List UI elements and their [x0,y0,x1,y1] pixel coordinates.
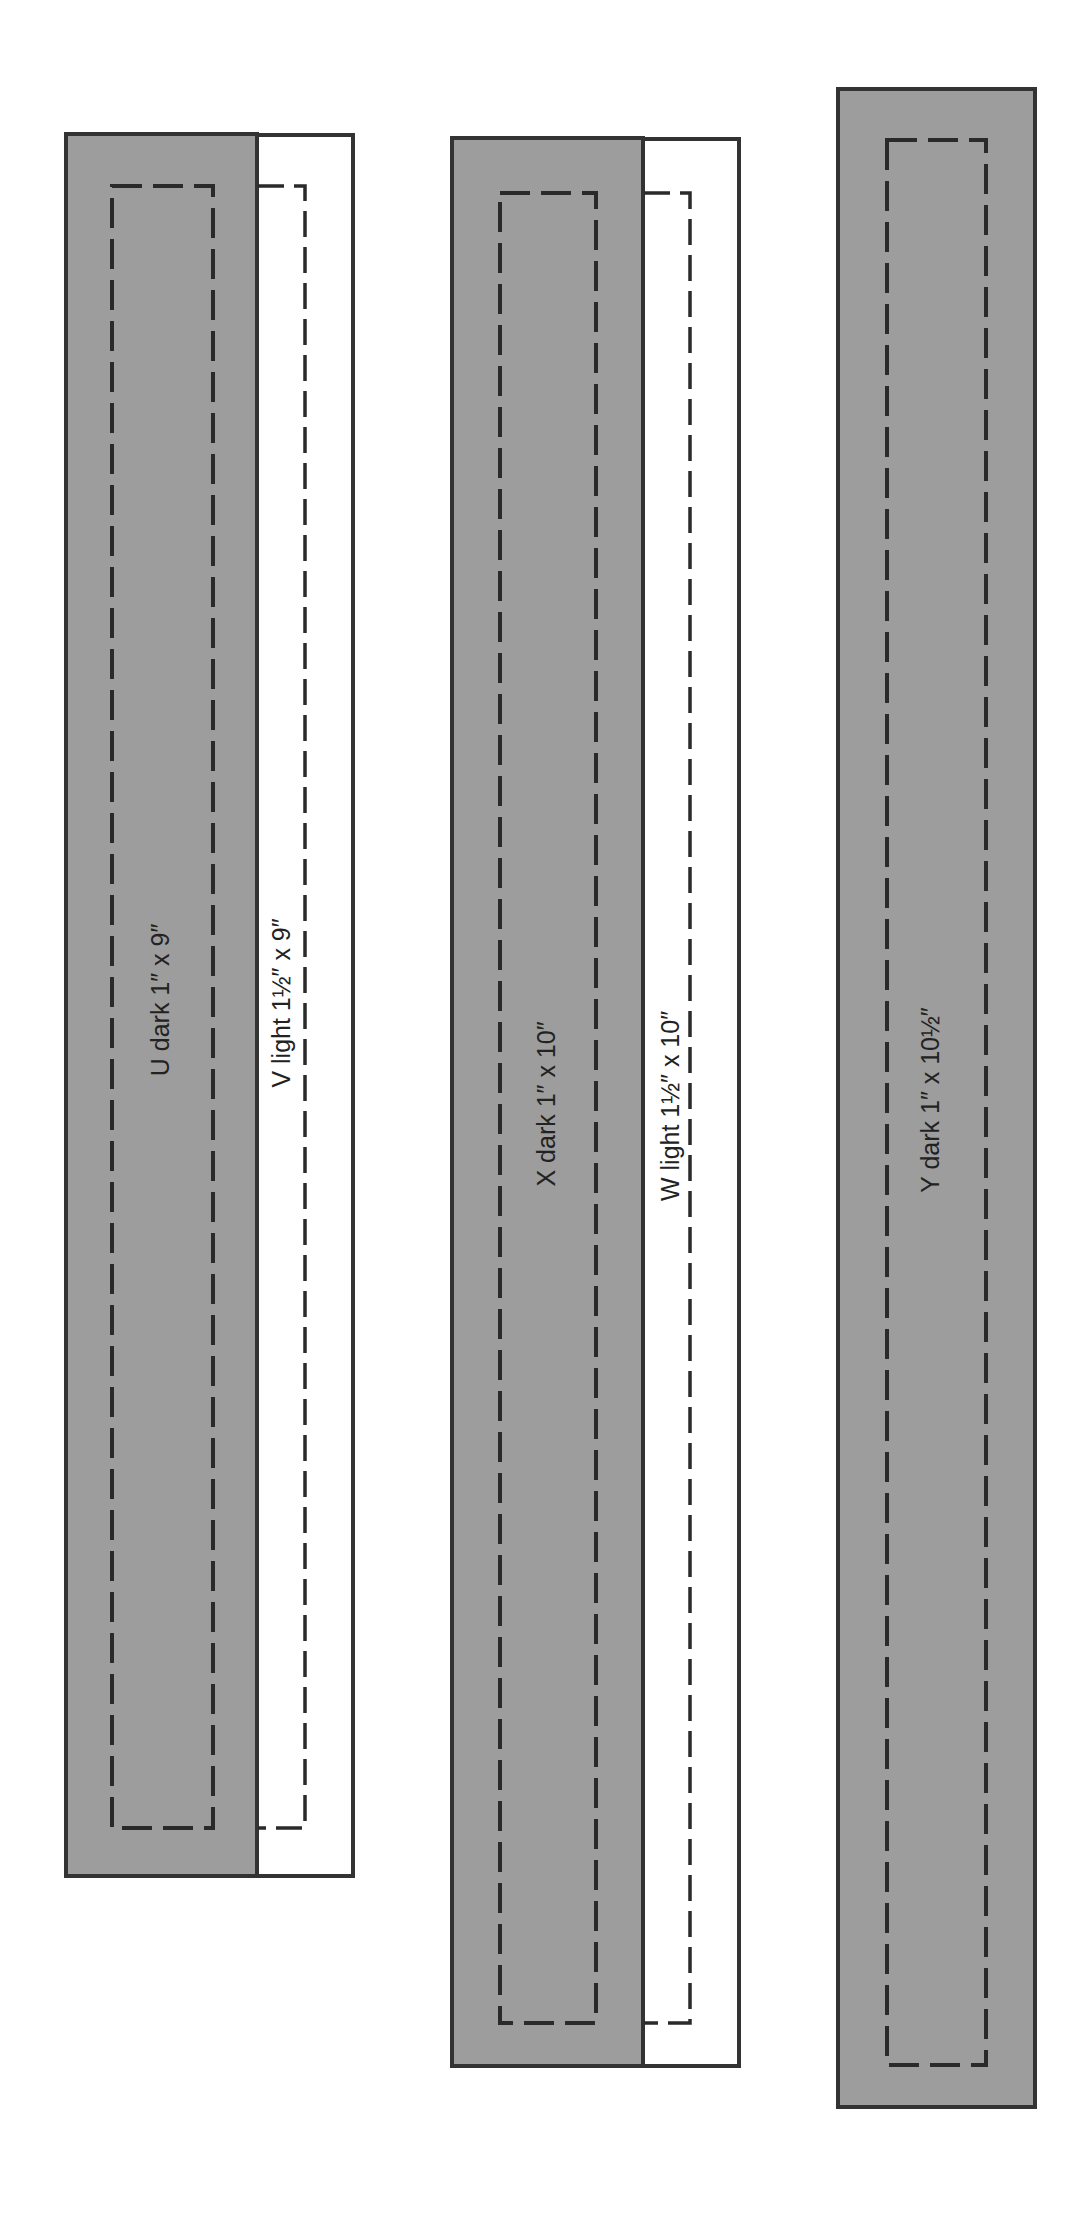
strip-u-label: U dark 1″ x 9″ [146,924,174,1077]
strip-group-y: Y dark 1″ x 10½″ [838,89,1035,2107]
strip-y-label: Y dark 1″ x 10½″ [916,1007,944,1193]
strip-x-label: X dark 1″ x 10″ [532,1021,560,1186]
strip-v-label: V light 1½″ x 9″ [267,918,295,1087]
quilt-strip-pattern-diagram: U dark 1″ x 9″ V light 1½″ x 9″ X dark 1… [0,0,1077,2237]
strip-group-u-v: U dark 1″ x 9″ V light 1½″ x 9″ [66,134,353,1876]
strip-group-x-w: X dark 1″ x 10″ W light 1½″ x 10″ [452,138,739,2066]
strip-w-label: W light 1½″ x 10″ [656,1011,684,1201]
